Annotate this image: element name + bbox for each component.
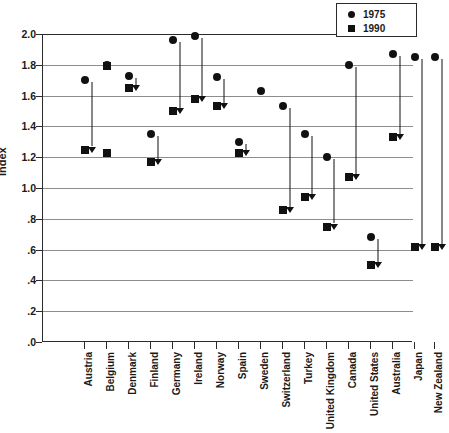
- x-tick-label-new-zealand: New Zealand: [438, 291, 449, 352]
- legend-item-1990: 1990: [348, 21, 416, 35]
- x-tick-label-japan: Japan: [418, 323, 429, 352]
- y-tick-label: 1.6: [2, 90, 36, 102]
- x-tick-label-spain: Spain: [242, 325, 253, 352]
- data-point-1990-germany: [169, 107, 177, 115]
- arrow-head-down-icon: [154, 159, 162, 165]
- x-tick-mark: [238, 342, 239, 349]
- x-tick-label-norway: Norway: [220, 316, 231, 352]
- x-tick-mark: [84, 342, 85, 349]
- data-point-1990-belgium: [103, 62, 111, 70]
- legend-label-1975: 1975: [363, 9, 385, 20]
- data-point-1990-turkey: [301, 193, 309, 201]
- data-point-1975-united-states: [367, 233, 375, 241]
- data-point-1990-switzerland: [279, 206, 287, 214]
- arrow-head-down-icon: [220, 103, 228, 109]
- y-tick-mark: [36, 342, 42, 343]
- gridline: [43, 157, 413, 158]
- y-tick-label: 2.0: [2, 28, 36, 40]
- arrow-head-down-icon: [176, 108, 184, 114]
- x-tick-mark: [150, 342, 151, 349]
- x-tick-label-text: Germany: [171, 352, 182, 395]
- data-point-1990-new-zealand: [431, 243, 439, 251]
- arrow-head-down-icon: [330, 224, 338, 230]
- x-tick-label-turkey: Turkey: [308, 320, 319, 352]
- x-tick-mark: [216, 342, 217, 349]
- x-tick-mark: [260, 342, 261, 349]
- x-tick-label-text: Canada: [347, 352, 358, 388]
- change-connector-line: [312, 136, 313, 194]
- x-tick-label-canada: Canada: [352, 316, 363, 352]
- data-point-1975-austria: [81, 76, 89, 84]
- x-tick-label-belgium: Belgium: [110, 313, 121, 352]
- data-point-1975-germany: [169, 36, 177, 44]
- circle-marker-icon: [348, 11, 355, 18]
- x-tick-label-text: Turkey: [303, 352, 314, 384]
- legend-label-1990: 1990: [363, 23, 385, 34]
- x-tick-mark: [392, 342, 393, 349]
- data-point-1990-united-states: [367, 261, 375, 269]
- arrow-head-down-icon: [418, 244, 426, 250]
- x-tick-label-denmark: Denmark: [132, 309, 143, 352]
- change-connector-line: [92, 82, 93, 146]
- arrow-head-down-icon: [286, 207, 294, 213]
- y-tick-label: 1.8: [2, 59, 36, 71]
- data-point-1975-canada: [345, 61, 353, 69]
- x-tick-label-text: United States: [369, 352, 380, 416]
- x-tick-label-germany: Germany: [176, 309, 187, 352]
- data-point-1990-extra-belgium: [103, 149, 111, 157]
- data-point-1990-canada: [345, 173, 353, 181]
- x-tick-label-text: Ireland: [193, 352, 204, 385]
- gridline: [43, 96, 413, 97]
- legend-item-1975: 1975: [348, 7, 416, 21]
- x-tick-mark: [304, 342, 305, 349]
- change-connector-line: [442, 59, 443, 243]
- x-tick-mark: [194, 342, 195, 349]
- change-connector-line: [334, 159, 335, 223]
- data-point-1990-denmark: [125, 84, 133, 92]
- gridline: [43, 126, 413, 127]
- data-point-1990-united-kingdom: [323, 223, 331, 231]
- x-tick-label-text: Australia: [391, 352, 402, 395]
- data-point-1990-austria: [81, 146, 89, 154]
- gridline: [43, 311, 413, 312]
- x-tick-label-finland: Finland: [154, 316, 165, 352]
- x-tick-mark: [282, 342, 283, 349]
- data-point-1990-norway: [213, 102, 221, 110]
- change-connector-line: [136, 78, 137, 85]
- x-tick-label-text: United Kingdom: [325, 352, 336, 429]
- change-connector-line: [202, 38, 203, 96]
- x-tick-label-united-kingdom: United Kingdom: [330, 275, 341, 352]
- arrow-head-down-icon: [132, 85, 140, 91]
- x-tick-mark: [370, 342, 371, 349]
- data-point-1975-spain: [235, 138, 243, 146]
- data-point-1975-denmark: [125, 72, 133, 80]
- y-tick-label: .2: [2, 305, 36, 317]
- arrow-head-down-icon: [198, 96, 206, 102]
- arrow-head-down-icon: [374, 262, 382, 268]
- gridline: [43, 250, 413, 251]
- data-point-1990-spain: [235, 149, 243, 157]
- data-point-1975-australia: [389, 50, 397, 58]
- x-tick-label-austria: Austria: [88, 318, 99, 352]
- change-connector-line: [158, 136, 159, 159]
- x-tick-mark: [348, 342, 349, 349]
- change-connector-line: [180, 42, 181, 108]
- x-tick-label-text: Spain: [237, 352, 248, 379]
- x-tick-mark: [106, 342, 107, 349]
- arrow-head-down-icon: [352, 174, 360, 180]
- data-point-1975-ireland: [191, 32, 199, 40]
- change-connector-line: [290, 108, 291, 206]
- data-point-1975-united-kingdom: [323, 153, 331, 161]
- x-tick-mark: [434, 342, 435, 349]
- y-tick-label: .6: [2, 244, 36, 256]
- square-marker-icon: [348, 25, 355, 32]
- change-connector-line: [422, 59, 423, 243]
- x-tick-mark: [326, 342, 327, 349]
- x-tick-label-ireland: Ireland: [198, 319, 209, 352]
- data-point-1975-japan: [411, 53, 419, 61]
- x-tick-mark: [128, 342, 129, 349]
- y-tick-label: .0: [2, 336, 36, 348]
- plot-area: [42, 34, 412, 342]
- gridline: [43, 65, 413, 66]
- arrow-head-down-icon: [438, 244, 446, 250]
